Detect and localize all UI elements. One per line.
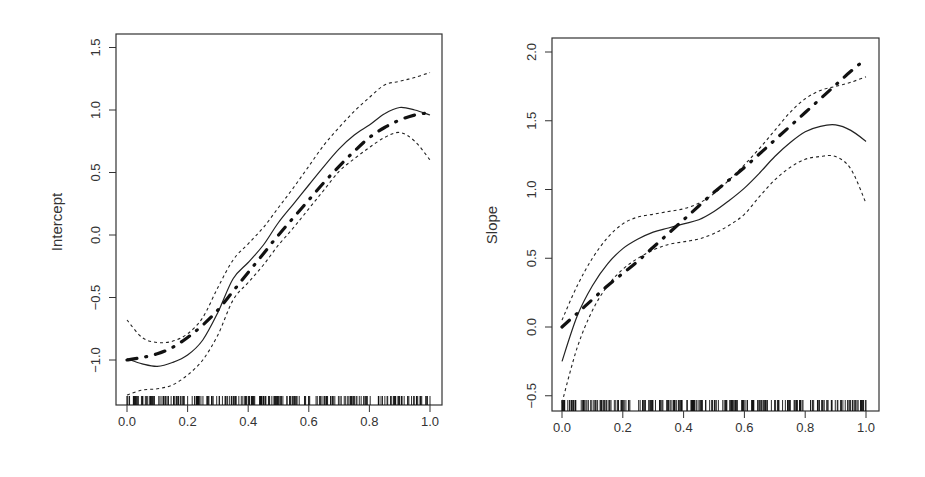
- y-tick-label: 0.5: [524, 249, 539, 267]
- y-tick-label: 0.5: [88, 163, 103, 181]
- plot-frame: [116, 34, 442, 405]
- x-tick-label: 0.0: [118, 414, 136, 429]
- x-tick-label: 0.4: [675, 420, 693, 435]
- y-tick-label: 0.0: [88, 226, 103, 244]
- upper-confidence-band: [127, 73, 430, 343]
- figure: 0.00.20.40.60.81.0 −1.0−0.50.00.51.01.5 …: [0, 0, 925, 477]
- rug-marks: [562, 400, 866, 411]
- y-tick-label: 0.0: [524, 318, 539, 336]
- x-tick-label: 0.8: [796, 420, 814, 435]
- true-function-curve: [562, 59, 866, 327]
- y-axis-label: Slope: [483, 206, 500, 244]
- y-tick-label: −1.0: [88, 347, 103, 373]
- y-tick-label: 1.5: [524, 112, 539, 130]
- x-axis: 0.00.20.40.60.81.0: [118, 405, 439, 429]
- x-tick-label: 0.8: [360, 414, 378, 429]
- intercept-panel: 0.00.20.40.60.81.0 −1.0−0.50.00.51.01.5 …: [48, 34, 442, 429]
- x-axis: 0.00.20.40.60.81.0: [553, 411, 875, 435]
- estimate-curve: [127, 107, 430, 366]
- x-tick-label: 0.6: [300, 414, 318, 429]
- lower-confidence-band: [127, 132, 430, 395]
- upper-confidence-band: [562, 77, 866, 320]
- x-tick-label: 0.4: [239, 414, 257, 429]
- x-tick-label: 1.0: [857, 420, 875, 435]
- y-axis-label: Intercept: [48, 192, 65, 251]
- rug-marks: [127, 396, 430, 405]
- y-tick-label: 1.5: [88, 38, 103, 56]
- plot-frame: [552, 38, 879, 411]
- y-axis: −1.0−0.50.00.51.01.5: [88, 38, 116, 372]
- x-tick-label: 0.2: [614, 420, 632, 435]
- y-axis: −0.50.00.51.01.52.0: [524, 43, 552, 409]
- y-tick-label: 1.0: [524, 180, 539, 198]
- y-tick-label: 2.0: [524, 43, 539, 61]
- true-function-curve: [127, 113, 430, 361]
- x-tick-label: 0.0: [553, 420, 571, 435]
- slope-panel: 0.00.20.40.60.81.0 −0.50.00.51.01.52.0 S…: [483, 38, 879, 435]
- y-tick-label: −0.5: [524, 383, 539, 409]
- x-tick-label: 0.2: [179, 414, 197, 429]
- y-tick-label: −0.5: [88, 285, 103, 311]
- x-tick-label: 1.0: [421, 414, 439, 429]
- x-tick-label: 0.6: [735, 420, 753, 435]
- y-tick-label: 1.0: [88, 101, 103, 119]
- estimate-curve: [562, 125, 866, 362]
